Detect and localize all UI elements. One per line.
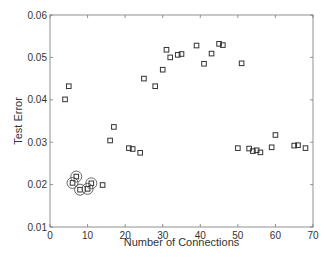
data-point bbox=[168, 55, 173, 60]
data-point bbox=[236, 146, 241, 151]
highlight-circle bbox=[71, 171, 82, 182]
plot-area bbox=[50, 15, 313, 227]
y-axis-label: Test Error bbox=[12, 97, 24, 145]
x-tick-label: 0 bbox=[47, 230, 53, 241]
data-point bbox=[142, 76, 147, 81]
y-tick-label: 0.03 bbox=[28, 137, 48, 148]
highlight-circle bbox=[75, 184, 86, 195]
y-tick-label: 0.02 bbox=[28, 179, 48, 190]
scatter-chart: 0102030405060700.010.020.030.040.050.06 … bbox=[0, 0, 331, 263]
y-tick-label: 0.06 bbox=[28, 10, 48, 21]
data-point bbox=[239, 61, 244, 66]
data-point bbox=[269, 145, 274, 150]
data-points bbox=[63, 42, 308, 196]
x-tick-label: 70 bbox=[307, 230, 319, 241]
data-point bbox=[160, 67, 165, 72]
data-point bbox=[78, 187, 83, 192]
x-axis-label: Number of Connections bbox=[124, 236, 240, 248]
axis-ticks: 0102030405060700.010.020.030.040.050.06 bbox=[28, 10, 319, 242]
data-point bbox=[63, 97, 68, 102]
data-point bbox=[164, 47, 169, 52]
y-tick-label: 0.04 bbox=[28, 94, 48, 105]
x-tick-label: 60 bbox=[270, 230, 282, 241]
data-point bbox=[273, 133, 278, 138]
data-point bbox=[66, 84, 71, 89]
data-point bbox=[153, 84, 158, 89]
data-point bbox=[202, 61, 207, 66]
data-point bbox=[138, 151, 143, 156]
data-point bbox=[112, 125, 117, 130]
data-point bbox=[209, 51, 214, 56]
data-point bbox=[303, 146, 308, 151]
x-tick-label: 10 bbox=[82, 230, 94, 241]
y-tick-label: 0.05 bbox=[28, 52, 48, 63]
data-point bbox=[194, 43, 199, 48]
data-point bbox=[100, 183, 105, 188]
y-tick-label: 0.01 bbox=[28, 222, 48, 233]
data-point bbox=[108, 138, 113, 143]
